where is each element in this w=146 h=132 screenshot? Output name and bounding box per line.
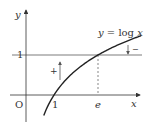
x-axis-label: x: [131, 98, 137, 109]
function-label: y = log x: [97, 27, 143, 38]
x-tick-1: 1: [52, 99, 58, 110]
y-axis-label: y: [14, 9, 21, 20]
plus-sign: +: [50, 66, 58, 76]
x-tick-e: e: [95, 99, 101, 110]
y-tick-1: 1: [17, 49, 23, 60]
minus-sign: −: [132, 45, 139, 54]
origin-label: O: [15, 99, 23, 110]
log-diagram: + − y x O 1 1 e y = log x: [0, 0, 146, 132]
